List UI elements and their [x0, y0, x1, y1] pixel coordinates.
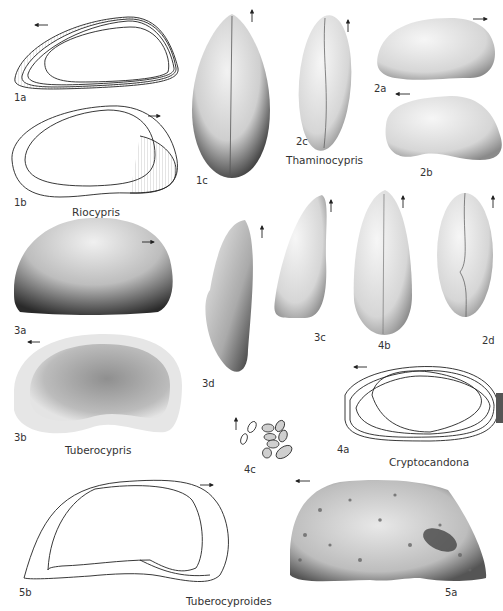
figure-4a-edge-shadow	[496, 393, 503, 423]
figure-2d-specimen	[437, 193, 493, 317]
figure-4b-specimen	[354, 190, 412, 335]
figure-3d-specimen	[205, 220, 262, 372]
figure-label-2b: 2b	[420, 168, 433, 178]
figure-label-5b: 5b	[19, 588, 32, 598]
genus-label-tuberocypris: Tuberocypris	[65, 445, 131, 456]
figure-1b-drawing	[12, 106, 178, 197]
figure-label-2c: 2c	[296, 137, 308, 147]
figure-label-5a: 5a	[445, 588, 458, 598]
figure-5a-specimen	[290, 480, 486, 581]
figure-2b-specimen	[386, 94, 502, 160]
figure-label-1c: 1c	[196, 176, 208, 186]
genus-label-cryptocandona: Cryptocandona	[389, 457, 469, 468]
figure-label-1a: 1a	[14, 93, 27, 103]
figure-2c-specimen	[294, 13, 355, 152]
figure-label-3c: 3c	[314, 333, 326, 343]
figure-label-2d: 2d	[482, 336, 495, 346]
figure-2a-specimen	[377, 18, 495, 80]
figure-label-4c: 4c	[244, 465, 256, 475]
figure-label-4a: 4a	[337, 445, 350, 455]
figure-3c-specimen	[274, 195, 331, 318]
figure-1c-specimen	[192, 10, 270, 178]
figure-label-2a: 2a	[374, 84, 387, 94]
figure-label-3b: 3b	[14, 433, 27, 443]
genus-label-thaminocypris: Thaminocypris	[286, 155, 363, 166]
fossil-plate: 1a 1b 1c 2a 2b 2c 2d 3a 3b 3c 3d 4a 4b 4…	[0, 0, 503, 611]
figure-3b-specimen	[14, 334, 182, 433]
genus-label-riocypris: Riocypris	[72, 207, 120, 218]
figure-5b-drawing	[24, 480, 228, 581]
figure-4a-drawing	[345, 367, 498, 441]
figure-label-1b: 1b	[14, 198, 27, 208]
figure-label-3a: 3a	[14, 326, 27, 336]
figure-3a-specimen	[14, 218, 173, 315]
figure-label-3d: 3d	[202, 379, 215, 389]
genus-label-tuberocyproides: Tuberocyproides	[186, 596, 272, 607]
figure-4c-muscle-scars	[236, 418, 294, 461]
figure-1a-drawing	[15, 17, 178, 89]
plate-figures	[0, 0, 503, 611]
figure-label-4b: 4b	[378, 341, 391, 351]
